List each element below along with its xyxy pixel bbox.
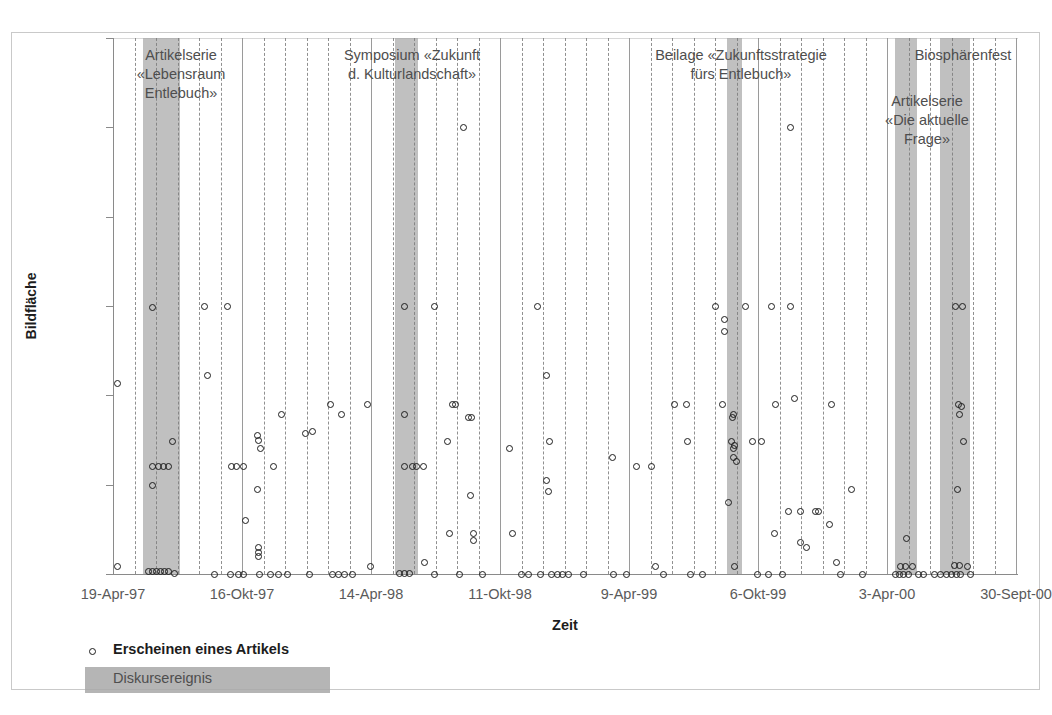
- y-axis-line: [113, 38, 114, 575]
- data-point: [683, 401, 690, 408]
- y-tick-mark: [106, 38, 113, 39]
- data-point: [413, 463, 420, 470]
- data-point: [254, 486, 261, 493]
- data-point: [114, 563, 121, 570]
- legend-item-discourse-event: Diskursereignis: [85, 665, 505, 693]
- data-point: [964, 563, 971, 570]
- data-point: [833, 559, 840, 566]
- data-point: [456, 571, 463, 578]
- data-point: [826, 521, 833, 528]
- data-point: [401, 463, 408, 470]
- gridline-minor: [608, 38, 609, 574]
- data-point: [421, 559, 428, 566]
- y-tick-mark: [106, 395, 113, 396]
- data-point: [623, 571, 630, 578]
- data-point: [468, 414, 475, 421]
- gridline-minor: [479, 38, 480, 574]
- data-point: [721, 316, 728, 323]
- gridline-minor: [823, 38, 824, 574]
- data-point: [224, 303, 231, 310]
- data-point: [227, 571, 234, 578]
- data-point: [114, 380, 121, 387]
- x-tick-label: 11-Okt-98: [468, 586, 531, 602]
- data-point: [909, 563, 916, 570]
- x-axis-title: Zeit: [552, 617, 578, 633]
- gridline-minor: [178, 38, 179, 574]
- data-point: [470, 537, 477, 544]
- gridline-major: [500, 38, 501, 574]
- legend-label-articles: Erscheinen eines Artikels: [113, 641, 289, 657]
- data-point: [309, 428, 316, 435]
- data-point: [957, 571, 964, 578]
- data-point: [905, 571, 912, 578]
- data-point: [431, 303, 438, 310]
- data-point: [712, 303, 719, 310]
- x-tick-label: 16-Okt-97: [210, 586, 274, 602]
- data-point: [257, 445, 264, 452]
- gridline-minor: [414, 38, 415, 574]
- y-tick-mark: [106, 306, 113, 307]
- data-point: [479, 571, 486, 578]
- data-point: [652, 563, 659, 570]
- data-point: [721, 328, 728, 335]
- data-point: [787, 124, 794, 131]
- data-point: [537, 571, 544, 578]
- data-point: [255, 553, 262, 560]
- y-tick-mark: [106, 127, 113, 128]
- data-point: [960, 438, 967, 445]
- data-point: [242, 517, 249, 524]
- gridline-minor: [844, 38, 845, 574]
- open-circle-icon: [89, 648, 96, 655]
- data-point: [284, 571, 291, 578]
- y-tick-mark: [106, 574, 113, 575]
- data-point: [401, 303, 408, 310]
- data-point: [787, 303, 794, 310]
- data-point: [420, 463, 427, 470]
- gridline-minor: [328, 38, 329, 574]
- data-point: [742, 303, 749, 310]
- data-point: [903, 535, 910, 542]
- legend-item-articles: Erscheinen eines Artikels: [85, 641, 505, 665]
- data-point: [848, 486, 855, 493]
- legend: Erscheinen eines Artikels Diskursereigni…: [85, 641, 505, 693]
- data-point: [546, 438, 553, 445]
- data-point: [169, 438, 176, 445]
- data-point: [952, 303, 959, 310]
- plot-top-rule: [113, 38, 1018, 39]
- y-tick-mark: [106, 485, 113, 486]
- gridline-minor: [264, 38, 265, 574]
- data-point: [772, 401, 779, 408]
- data-point: [240, 571, 247, 578]
- data-point: [149, 482, 156, 489]
- data-point: [431, 571, 438, 578]
- gridline-minor: [801, 38, 802, 574]
- data-point: [275, 571, 282, 578]
- data-point: [518, 571, 525, 578]
- gridline-minor: [780, 38, 781, 574]
- data-point: [791, 395, 798, 402]
- gridline-minor: [586, 38, 587, 574]
- data-point: [660, 571, 667, 578]
- data-point: [648, 463, 655, 470]
- data-point: [256, 571, 263, 578]
- data-point: [684, 438, 691, 445]
- data-point: [349, 571, 356, 578]
- data-point: [525, 571, 532, 578]
- data-point: [255, 437, 262, 444]
- gridline-major: [629, 38, 630, 574]
- data-point: [543, 477, 550, 484]
- data-point: [367, 563, 374, 570]
- data-point: [958, 403, 965, 410]
- data-point: [306, 571, 313, 578]
- legend-label-discourse-event: Diskursereignis: [113, 670, 212, 686]
- data-point: [779, 571, 786, 578]
- gridline-minor: [457, 38, 458, 574]
- gridline-minor: [651, 38, 652, 574]
- data-point: [671, 401, 678, 408]
- data-point: [233, 463, 240, 470]
- data-point: [543, 372, 550, 379]
- x-tick-label: 3-Apr-00: [859, 586, 915, 602]
- data-point: [506, 445, 513, 452]
- data-point: [444, 438, 451, 445]
- data-point: [165, 463, 172, 470]
